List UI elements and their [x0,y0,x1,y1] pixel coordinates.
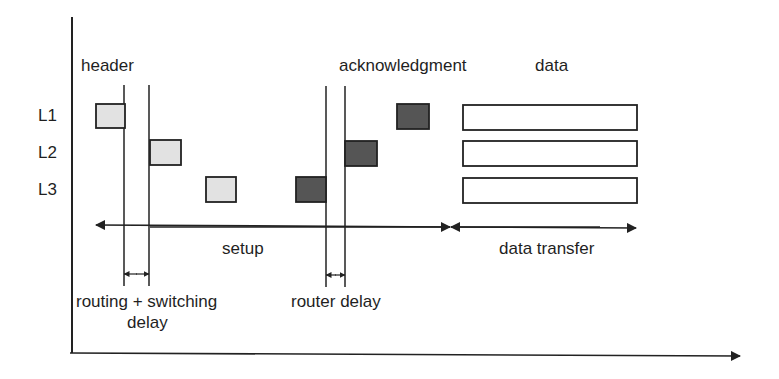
routing-switching-delay-label: delay [127,314,168,332]
header-label: header [81,57,134,75]
time-axis-arrow [70,353,740,356]
ack-flit-L2 [345,141,377,166]
acknowledgment-label: acknowledgment [339,57,467,75]
data-block-L3 [463,178,637,203]
ack-flit-L1 [397,104,429,129]
header-flit-L3 [206,177,236,202]
data-transfer-label: data transfer [499,240,594,258]
link-label-L3: L3 [38,181,57,199]
data-block-L1 [463,105,637,130]
header-flit-L2 [150,140,181,165]
data-block-L2 [463,141,637,166]
routing-switching-label: routing + switching [76,293,217,311]
link-label-L1: L1 [38,107,57,125]
ack-flit-L3 [296,177,326,202]
data-label: data [535,57,568,75]
setup-label: setup [222,240,264,258]
header-flit-L1 [96,104,125,128]
link-label-L2: L2 [38,144,57,162]
router-delay-label: router delay [291,293,381,311]
